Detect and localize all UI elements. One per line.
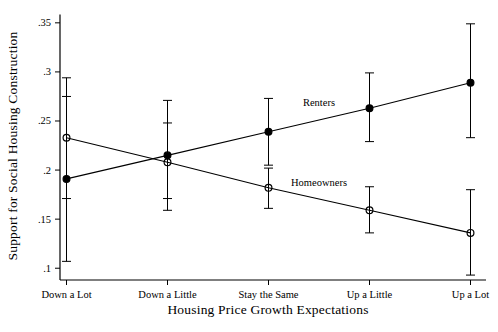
- x-tick-label: Down a Little: [138, 289, 197, 300]
- x-tick-label: Up a Lot: [452, 289, 489, 300]
- y-tick-label: .35: [38, 17, 51, 28]
- y-tick-label: .2: [43, 165, 51, 176]
- y-axis-title: Support for Social Housing Construction: [5, 0, 21, 296]
- x-tick-label: Up a Little: [347, 289, 393, 300]
- homeowners-series-label: Homeowners: [291, 177, 347, 188]
- renters-marker: [265, 128, 272, 135]
- renters-series-label: Renters: [303, 97, 335, 108]
- y-tick-label: .25: [38, 115, 51, 126]
- renters-marker: [467, 79, 474, 86]
- x-tick-label: Stay the Same: [238, 289, 298, 300]
- x-tick-label: Down a Lot: [41, 289, 91, 300]
- y-tick-label: .1: [43, 263, 51, 274]
- plot-area: .1.15.2.25.3.35Down a LotDown a LittleSt…: [0, 0, 498, 332]
- renters-marker: [366, 105, 373, 112]
- y-tick-label: .3: [43, 66, 51, 77]
- chart: .1.15.2.25.3.35Down a LotDown a LittleSt…: [0, 0, 498, 332]
- y-tick-label: .15: [38, 214, 51, 225]
- x-axis-title: Housing Price Growth Expectations: [50, 302, 486, 318]
